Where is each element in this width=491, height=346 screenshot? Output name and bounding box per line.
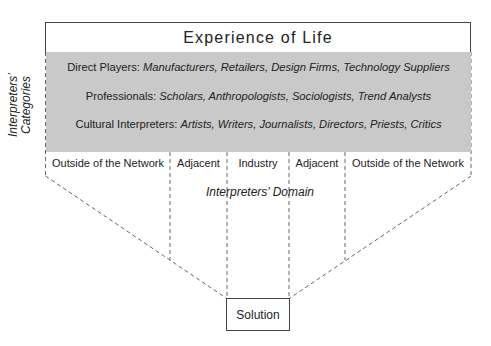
solution-box: Solution	[226, 298, 290, 331]
category-label: Professionals:	[86, 90, 156, 102]
category-items: Artists, Writers, Journalists, Directors…	[181, 118, 442, 130]
category-items: Scholars, Anthropologists, Sociologists,…	[159, 90, 431, 102]
category-cultural-interpreters: Cultural Interpreters: Artists, Writers,…	[46, 118, 471, 130]
experience-of-life-box: Experience of Life	[45, 22, 471, 53]
column-adjacent-left: Adjacent	[170, 157, 227, 169]
category-direct-players: Direct Players: Manufacturers, Retailers…	[46, 61, 471, 73]
interpreters-categories-label: Interpreters’ Categories	[7, 55, 33, 155]
category-label: Cultural Interpreters:	[75, 118, 177, 130]
column-adjacent-right: Adjacent	[289, 157, 345, 169]
category-professionals: Professionals: Scholars, Anthropologists…	[46, 90, 471, 102]
column-outside-right: Outside of the Network	[345, 157, 471, 169]
category-items: Manufacturers, Retailers, Design Firms, …	[143, 61, 450, 73]
column-industry: Industry	[227, 157, 289, 169]
column-outside-left: Outside of the Network	[46, 157, 170, 169]
interpreters-domain-label: Interpreters’ Domain	[180, 185, 340, 199]
solution-label: Solution	[236, 308, 279, 322]
diagram-title: Experience of Life	[183, 29, 333, 47]
category-label: Direct Players:	[67, 61, 140, 73]
side-label-line2: Categories	[20, 55, 33, 155]
interpreters-categories-area: Direct Players: Manufacturers, Retailers…	[46, 52, 471, 152]
